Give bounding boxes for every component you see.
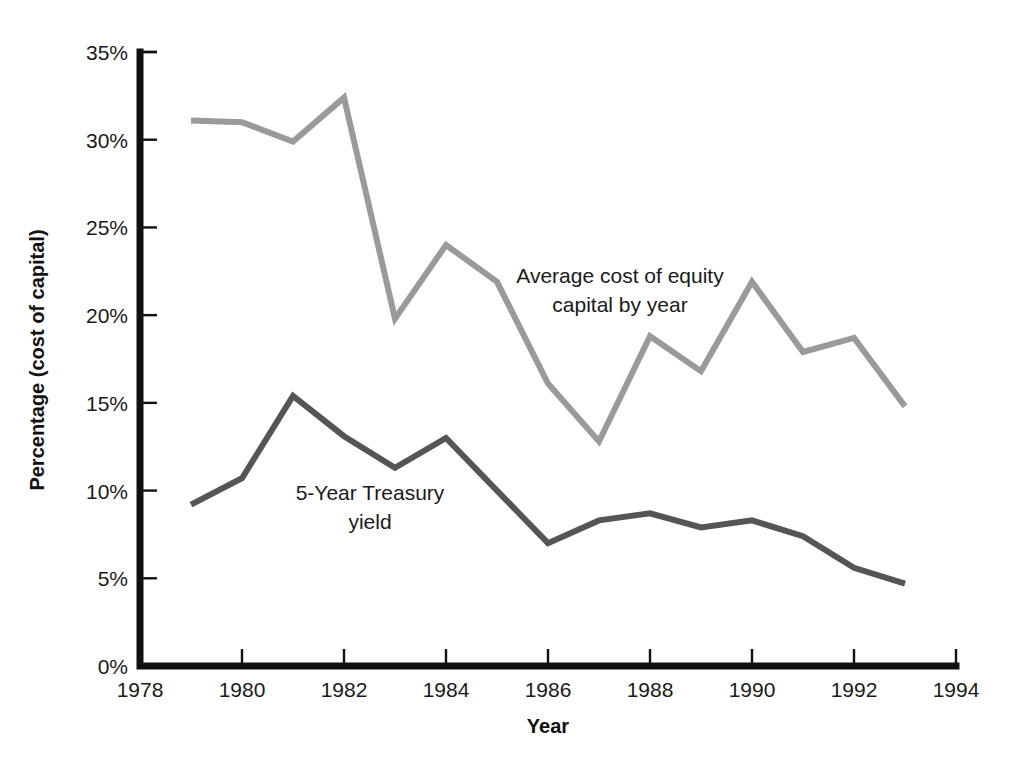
chart-figure: 0%5%10%15%20%25%30%35% 19781980198219841… xyxy=(0,0,1016,774)
treasury-annotation: 5-Year Treasuryyield xyxy=(296,481,445,533)
axis-spine xyxy=(140,52,956,666)
x-axis-tick-labels: 197819801982198419861988199019921994 xyxy=(117,678,980,701)
y-tick-label: 0% xyxy=(98,655,128,678)
x-axis-title: Year xyxy=(527,715,569,737)
x-tick-label: 1984 xyxy=(423,678,470,701)
x-tick-label: 1978 xyxy=(117,678,164,701)
y-axis-title: Percentage (cost of capital) xyxy=(26,229,48,490)
y-tick-label: 5% xyxy=(98,567,128,590)
annotation-line: Average cost of equity xyxy=(516,264,724,287)
x-tick-label: 1994 xyxy=(933,678,980,701)
x-tick-label: 1982 xyxy=(321,678,368,701)
line-chart-canvas: 0%5%10%15%20%25%30%35% 19781980198219841… xyxy=(0,0,1016,774)
y-tick-label: 10% xyxy=(86,480,128,503)
x-tick-label: 1980 xyxy=(219,678,266,701)
annotation-line: yield xyxy=(348,510,391,533)
x-tick-label: 1988 xyxy=(627,678,674,701)
x-tick-label: 1986 xyxy=(525,678,572,701)
y-tick-label: 30% xyxy=(86,129,128,152)
annotation-line: 5-Year Treasury xyxy=(296,481,445,504)
data-series-group xyxy=(191,98,905,584)
equity-annotation: Average cost of equitycapital by year xyxy=(516,264,724,316)
y-tick-label: 35% xyxy=(86,41,128,64)
y-tick-label: 25% xyxy=(86,216,128,239)
y-tick-label: 20% xyxy=(86,304,128,327)
y-axis-tick-labels: 0%5%10%15%20%25%30%35% xyxy=(86,41,128,678)
x-tick-label: 1992 xyxy=(831,678,878,701)
y-tick-label: 15% xyxy=(86,392,128,415)
annotation-line: capital by year xyxy=(552,293,687,316)
x-tick-label: 1990 xyxy=(729,678,776,701)
